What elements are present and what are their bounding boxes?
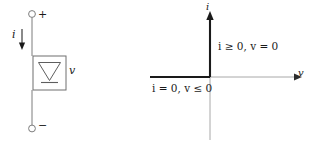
axis-label-i: i: [206, 2, 209, 12]
terminal-negative-label: −: [38, 120, 47, 131]
terminal-positive-node: [29, 11, 36, 18]
annotation-reverse-region: i = 0, v ≤ 0: [152, 83, 212, 94]
terminal-negative-node: [29, 125, 36, 132]
iv-characteristic-svg: [150, 0, 311, 146]
voltage-label: v: [69, 65, 75, 76]
axis-i-arrowhead: [206, 11, 213, 20]
circuit-diagram-panel: + − i v: [0, 0, 155, 146]
terminal-positive-label: +: [38, 9, 47, 20]
current-label: i: [12, 29, 16, 40]
circuit-svg: [0, 0, 155, 146]
iv-characteristic-panel: [150, 0, 311, 146]
axis-label-v: v: [298, 68, 304, 78]
annotation-forward-region: i ≥ 0, v = 0: [218, 41, 278, 52]
figure-ideal-diode: + − i v i v i ≥ 0, v = 0 i = 0, v ≤ 0: [0, 0, 311, 146]
current-arrow-head: [19, 43, 25, 51]
